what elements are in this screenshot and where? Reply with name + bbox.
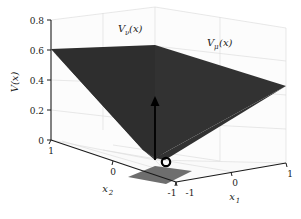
annotation-v-nu-suffix: (x) — [129, 23, 143, 34]
x2-tick-label-neg1: -1 — [168, 188, 177, 198]
x1-axis-label-sub: 1 — [236, 197, 240, 205]
x2-axis-label-text: x — [102, 183, 108, 194]
x2-tick-label-1: 1 — [48, 146, 54, 156]
x1-tick-label-0: 0 — [232, 178, 238, 188]
x1-axis-label: x 1 — [229, 191, 240, 205]
x1-tick-label-neg1: -1 — [186, 188, 195, 198]
z-tick-label-0.2: 0.2 — [30, 106, 44, 116]
z-axis-label: V(x) — [9, 72, 20, 93]
z-tick-label-0: 0 — [38, 136, 44, 146]
x2-axis-label: x 2 — [102, 183, 114, 197]
x1-tick-label-1: 1 — [287, 169, 293, 179]
plot-canvas: 0 0.2 0.4 0.6 0.8 1 0 -1 x 2 -1 0 1 x — [0, 0, 301, 219]
z-axis-ticks — [47, 20, 51, 140]
figure-3d-surface-plot: 0 0.2 0.4 0.6 0.8 1 0 -1 x 2 -1 0 1 x — [0, 0, 301, 219]
z-tick-label-0.8: 0.8 — [30, 16, 45, 26]
z-tick-label-0.6: 0.6 — [30, 46, 45, 56]
z-tick-label-0.4: 0.4 — [30, 76, 45, 86]
x2-axis-label-sub: 2 — [108, 189, 114, 197]
x2-tick-label-0: 0 — [110, 167, 116, 177]
x1-axis-label-text: x — [229, 191, 235, 202]
annotation-v-mu-suffix: (x) — [219, 37, 233, 48]
